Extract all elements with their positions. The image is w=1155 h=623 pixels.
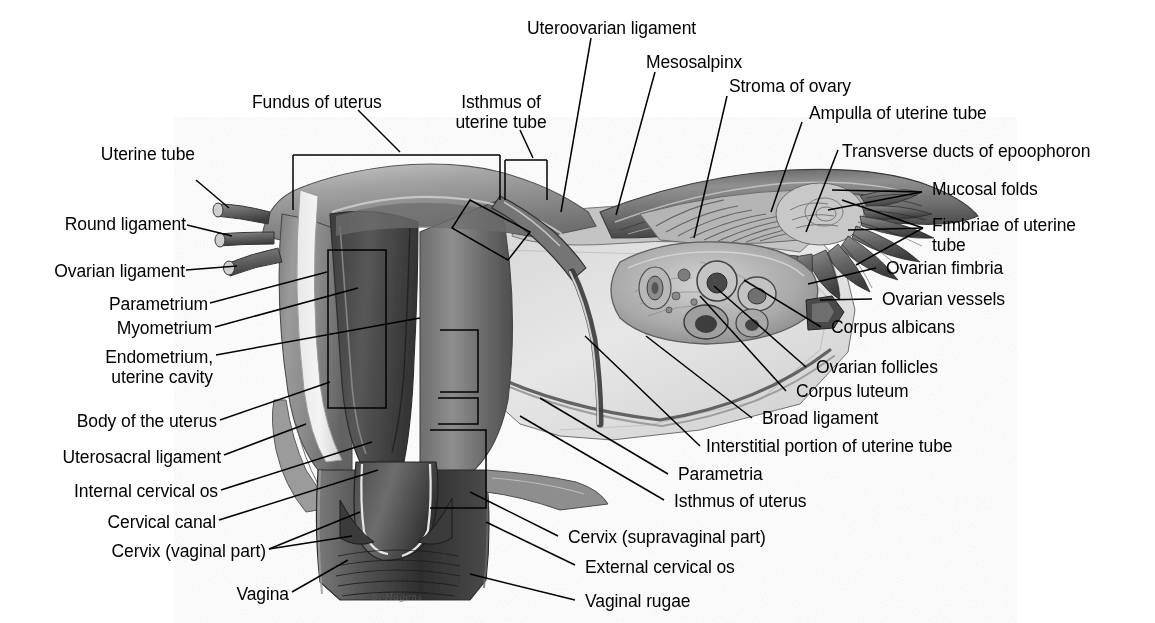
label-corpus-albicans: Corpus albicans: [831, 318, 955, 338]
label-uteroovarian-ligament: Uteroovarian ligament: [527, 19, 696, 39]
label-fimbriae: Fimbriae of uterine tube: [932, 216, 1076, 255]
label-cervix-vaginal-part: Cervix (vaginal part): [0, 542, 266, 562]
label-broad-ligament: Broad ligament: [762, 409, 878, 429]
label-ampulla-uterine-tube: Ampulla of uterine tube: [809, 104, 987, 124]
label-isthmus-of-uterus: Isthmus of uterus: [674, 492, 807, 512]
label-external-cervical-os: External cervical os: [585, 558, 735, 578]
label-cervix-supravaginal: Cervix (supravaginal part): [568, 528, 766, 548]
label-uterine-tube: Uterine tube: [20, 145, 195, 165]
label-interstitial-portion: Interstitial portion of uterine tube: [706, 437, 952, 457]
artist-signature: S. Hagens: [372, 592, 423, 602]
label-mesosalpinx: Mesosalpinx: [646, 53, 742, 73]
label-vagina: Vagina: [0, 585, 289, 605]
label-corpus-luteum: Corpus luteum: [796, 382, 909, 402]
label-transverse-ducts: Transverse ducts of epoophoron: [842, 142, 1090, 162]
label-parametrium: Parametrium: [0, 295, 208, 315]
label-internal-cervical-os: Internal cervical os: [0, 482, 218, 502]
label-ovarian-ligament: Ovarian ligament: [0, 262, 185, 282]
label-endometrium: Endometrium, uterine cavity: [0, 348, 213, 387]
label-uterosacral-ligament: Uterosacral ligament: [0, 448, 221, 468]
figure-canvas: Uterine tube Round ligament Ovarian liga…: [0, 0, 1155, 623]
label-vaginal-rugae: Vaginal rugae: [585, 592, 690, 612]
label-cervical-canal: Cervical canal: [0, 513, 216, 533]
label-isthmus-uterine-tube: Isthmus of uterine tube: [446, 93, 556, 132]
label-fundus-of-uterus: Fundus of uterus: [252, 93, 382, 113]
label-ovarian-vessels: Ovarian vessels: [882, 290, 1005, 310]
label-ovarian-fimbria: Ovarian fimbria: [886, 259, 1003, 279]
label-ovarian-follicles: Ovarian follicles: [816, 358, 938, 378]
label-parametria: Parametria: [678, 465, 763, 485]
label-stroma-of-ovary: Stroma of ovary: [729, 77, 851, 97]
label-myometrium: Myometrium: [0, 319, 212, 339]
label-body-of-uterus: Body of the uterus: [0, 412, 217, 432]
label-mucosal-folds: Mucosal folds: [932, 180, 1038, 200]
label-round-ligament: Round ligament: [10, 215, 186, 235]
